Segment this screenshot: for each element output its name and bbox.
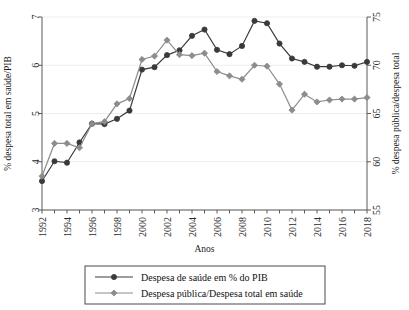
x-axis-tick-label: 1996: [87, 217, 98, 237]
series-1-point: [64, 140, 70, 146]
x-axis-tick-label: 1992: [37, 217, 48, 237]
y-axis-right-tick-label: 65: [371, 109, 382, 119]
x-axis-tick-label: 2006: [212, 217, 223, 237]
chart-container: 3456755606570751992199419961998200020022…: [0, 0, 409, 310]
x-axis-tick-label: 2002: [162, 217, 173, 237]
series-1-point: [339, 96, 345, 102]
series-1-point: [89, 121, 95, 127]
y-axis-right-tick-label: 60: [371, 157, 382, 167]
y-axis-left-tick-label: 4: [30, 159, 41, 164]
y-axis-left-tick-label: 6: [30, 63, 41, 68]
legend-marker-0: [111, 274, 116, 279]
series-1-point: [226, 73, 232, 79]
y-axis-left-tick-label: 5: [30, 111, 41, 116]
series-0-point: [327, 64, 332, 69]
y-axis-left-tick-label: 3: [30, 208, 41, 213]
series-0-point: [127, 108, 132, 113]
series-1-point: [51, 140, 57, 146]
y-axis-right-tick-label: 75: [371, 12, 382, 22]
series-1-point: [126, 95, 132, 101]
x-axis-tick-label: 2016: [337, 217, 348, 237]
series-1-point: [364, 94, 370, 100]
x-axis-tick-label: 2010: [262, 217, 273, 237]
y-axis-left-tick-label: 7: [30, 15, 41, 20]
legend-label-0[interactable]: Despesa de saúde em % do PIB: [141, 272, 268, 283]
x-axis-tick-label: 1998: [112, 217, 123, 237]
x-axis-tick-label: 2004: [187, 217, 198, 237]
x-axis-tick-label: 1994: [62, 217, 73, 237]
series-0-point: [252, 18, 257, 23]
y-axis-right-tick-label: 55: [371, 205, 382, 215]
series-0-point: [277, 41, 282, 46]
series-1-point: [326, 97, 332, 103]
series-1-point: [351, 96, 357, 102]
x-axis-title: Anos: [194, 244, 214, 254]
series-0-point: [227, 52, 232, 57]
legend-label-1[interactable]: Despesa pública/Despesa total em saúde: [141, 288, 303, 299]
y-axis-left-title: % despesa total em saúde/PIB: [3, 56, 13, 171]
x-axis-tick-label: 2008: [237, 217, 248, 237]
x-axis-tick-label: 2012: [287, 217, 298, 237]
y-axis-right-tick-label: 70: [371, 60, 382, 70]
series-0-point: [189, 33, 194, 38]
series-0-point: [164, 53, 169, 58]
series-1-point: [314, 99, 320, 105]
series-0-point: [64, 160, 69, 165]
x-axis-tick-label: 2018: [362, 217, 373, 237]
series-1-point: [189, 53, 195, 59]
series-line-1: [42, 40, 367, 176]
series-0-point: [114, 116, 119, 121]
x-axis-tick-label: 2000: [137, 217, 148, 237]
series-0-point: [289, 56, 294, 61]
series-1-point: [139, 56, 145, 62]
series-0-point: [239, 43, 244, 48]
series-0-point: [364, 59, 369, 64]
series-0-point: [302, 59, 307, 64]
series-0-point: [264, 21, 269, 26]
series-0-point: [202, 27, 207, 32]
series-0-point: [152, 65, 157, 70]
series-0-point: [339, 63, 344, 68]
y-axis-right-title: % despesa pública/despesa total: [391, 52, 401, 174]
series-0-point: [139, 67, 144, 72]
series-0-point: [314, 64, 319, 69]
series-0-point: [352, 63, 357, 68]
x-axis-tick-label: 2014: [312, 217, 323, 237]
line-chart: 3456755606570751992199419961998200020022…: [0, 0, 409, 310]
series-0-point: [214, 47, 219, 52]
series-0-point: [52, 159, 57, 164]
